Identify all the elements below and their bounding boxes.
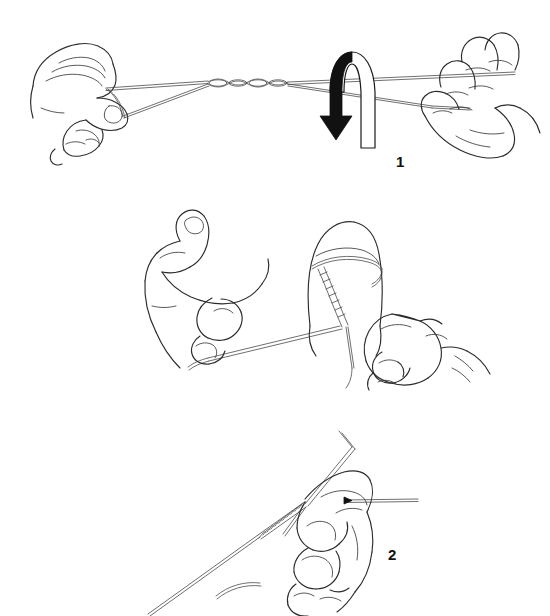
line-up-right-from-coils [305, 431, 355, 506]
line-left-strand-upper [106, 81, 208, 91]
line-right-strand-lower [288, 84, 470, 110]
line-right-strand-upper [288, 72, 515, 85]
left-fist-holding-tag-end [145, 210, 269, 368]
hand-pinching-coils [287, 471, 372, 616]
twisted-wraps-on-finger [318, 267, 348, 327]
step-1-panel: 1 [0, 0, 550, 200]
tag-end-line [344, 497, 418, 504]
line-loop-around-finger [312, 256, 382, 287]
step-1-drawing [0, 0, 550, 200]
step-3-drawing [0, 400, 550, 616]
left-hand-pinching-loop [31, 44, 128, 165]
step-3-panel: 3 [0, 400, 550, 616]
line-exiting-bottom [216, 583, 261, 599]
line-to-right-fist [346, 327, 354, 388]
step-2-panel: 2 [0, 196, 550, 396]
twisted-line-segment [208, 79, 288, 87]
coiled-wraps [258, 502, 306, 539]
step-number-1: 1 [396, 154, 404, 169]
raised-finger-with-loop [308, 222, 382, 356]
right-fist-holding-standing-end [364, 314, 490, 390]
rotation-arrow-downward [320, 52, 375, 148]
illustration-sheet: 1 [0, 0, 550, 616]
standing-end-line [148, 535, 260, 616]
step-2-drawing [0, 196, 550, 396]
right-hand-holding-line [421, 33, 540, 158]
line-left-strand-lower [123, 84, 209, 118]
